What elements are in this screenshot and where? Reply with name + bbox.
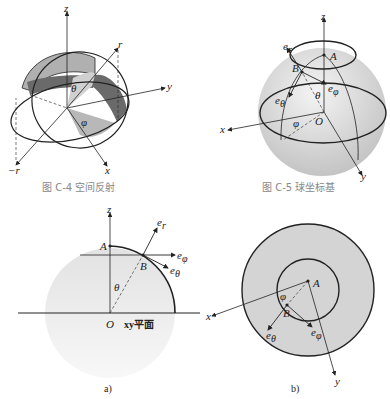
figure-c5-caption: 图 C-5 球坐标基 (262, 181, 335, 193)
y-label: y (166, 80, 172, 92)
xy-plane-label: xy平面 (124, 319, 154, 330)
B-label: B (140, 260, 147, 272)
theta-label: θ (71, 82, 77, 94)
O-label: O (315, 115, 323, 127)
point-A (322, 53, 325, 56)
figure-b-caption: b) (291, 383, 299, 395)
y-label: y (334, 375, 340, 387)
x-label: x (219, 123, 225, 135)
phi-label: φ (280, 290, 286, 302)
B-label: B (292, 62, 299, 74)
phi-label: φ (293, 117, 299, 129)
dashed-diameter (30, 95, 67, 108)
theta-label: θ (114, 281, 120, 293)
figure-a-caption: a) (104, 383, 112, 395)
figure-c4-caption: 图 C-4 空间反射 (42, 181, 115, 193)
x-label: x (104, 164, 110, 176)
figure-c5-spherical-basis: z x y A B O er eφ eθ θ φ 图 C-5 球坐标基 (219, 10, 386, 193)
A-label: A (329, 50, 337, 62)
z-label: z (320, 10, 326, 22)
O-label: O (106, 318, 114, 330)
B-label: B (283, 307, 290, 319)
diagram-canvas: z y x r −r θ φ 图 C-4 空间反射 z x y A B O er… (0, 0, 390, 399)
z-label: z (63, 2, 69, 14)
e-r-label: er (283, 40, 292, 55)
point-A (108, 244, 111, 247)
x-label: x (205, 310, 211, 322)
e-r-label: er (157, 216, 166, 231)
A-label: A (312, 277, 320, 289)
phi-wedge (67, 108, 115, 137)
y-label: y (360, 170, 366, 182)
e-r-vector (143, 228, 157, 255)
A-label: A (99, 240, 107, 252)
figure-b-top-view: A B x y φ eθ eφ b) (205, 224, 374, 395)
neg-r-vector (16, 108, 67, 165)
neg-r-label: −r (8, 164, 20, 176)
e-phi-label: eφ (177, 249, 188, 264)
figure-a-meridian-section: z A B O xy平面 θ er eφ eθ a) (18, 203, 200, 395)
r-label: r (118, 38, 123, 50)
phi-label: φ (81, 116, 87, 128)
z-label: z (106, 203, 112, 215)
e-theta-label: eθ (170, 264, 180, 279)
point-A (306, 279, 309, 282)
theta-label: θ (315, 89, 321, 101)
figure-c4-spatial-reflection: z y x r −r θ φ 图 C-4 空间反射 (5, 2, 172, 193)
